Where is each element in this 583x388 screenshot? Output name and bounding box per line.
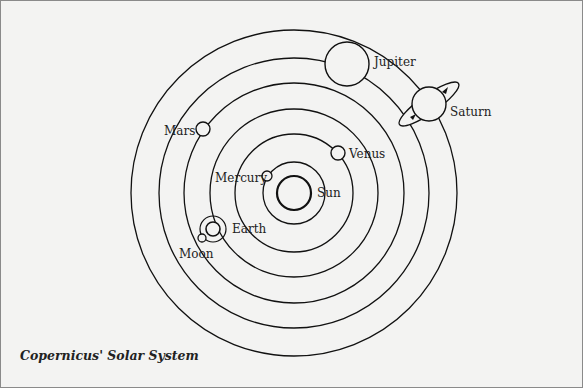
label-mercury: Mercury bbox=[215, 171, 267, 185]
earth-icon bbox=[206, 222, 220, 236]
solar-system-diagram: Sun Mercury Venus Earth Moon Mars Jupite… bbox=[0, 0, 583, 388]
diagram-canvas: Sun Mercury Venus Earth Moon Mars Jupite… bbox=[1, 1, 583, 388]
sun-icon bbox=[277, 176, 311, 210]
label-moon: Moon bbox=[179, 247, 214, 261]
label-venus: Venus bbox=[348, 147, 385, 161]
label-jupiter: Jupiter bbox=[372, 55, 416, 69]
label-saturn: Saturn bbox=[450, 105, 492, 119]
venus-icon bbox=[331, 146, 345, 160]
jupiter-icon bbox=[325, 42, 369, 86]
label-sun: Sun bbox=[317, 186, 341, 200]
diagram-caption: Copernicus' Solar System bbox=[20, 348, 199, 363]
label-mars: Mars bbox=[164, 124, 195, 138]
mars-icon bbox=[196, 122, 210, 136]
moon-icon bbox=[198, 234, 206, 242]
label-earth: Earth bbox=[232, 222, 266, 236]
saturn-icon bbox=[394, 76, 463, 132]
